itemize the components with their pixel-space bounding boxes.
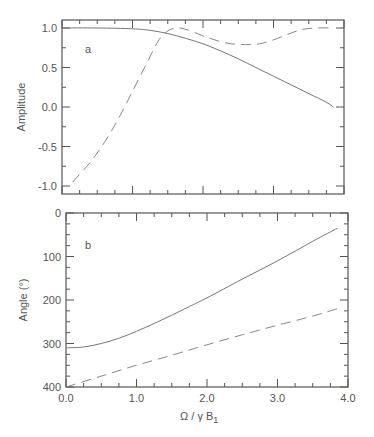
x-axis-label: Ω / γ B1 (180, 410, 218, 425)
y-tick-label: -1.0 (38, 180, 57, 192)
y-tick-label: 100 (43, 251, 61, 263)
amplitude-ticks: 1.00.50.0-0.5-1.0 (38, 20, 344, 194)
y-tick-label: -0.5 (38, 141, 57, 153)
x-tick-label: 3.0 (270, 392, 285, 404)
y-tick-label: 400 (43, 381, 61, 393)
y-tick-label: 0.5 (42, 62, 57, 74)
x-axis-label-subscript: 1 (213, 415, 218, 425)
panel-label-b: b (85, 239, 91, 251)
panel-label-a: a (85, 43, 92, 55)
amplitude-plot-frame (62, 20, 344, 194)
y-tick-label: 0.0 (42, 101, 57, 113)
angle-axis-label: Angle (°) (17, 279, 29, 322)
solid-curve (66, 228, 337, 348)
chart-figure: 1.00.50.0-0.5-1.0 a Amplitude 0.01.02.03… (0, 0, 374, 437)
amplitude-panel: 1.00.50.0-0.5-1.0 a Amplitude (15, 20, 344, 194)
y-tick-label: 300 (43, 338, 61, 350)
angle-panel: 0.01.02.03.04.00100200300400 b Angle (°)… (17, 207, 356, 425)
x-tick-label: 4.0 (340, 392, 355, 404)
y-tick-label: 200 (43, 294, 61, 306)
amplitude-series (62, 28, 333, 182)
y-tick-label: 1.0 (42, 22, 57, 34)
x-tick-label: 2.0 (199, 392, 214, 404)
y-tick-label: 0 (55, 207, 61, 219)
dashed-curve (73, 28, 334, 182)
x-tick-label: 1.0 (129, 392, 144, 404)
angle-ticks: 0.01.02.03.04.00100200300400 (43, 207, 356, 404)
angle-series (66, 228, 337, 387)
x-axis-label-main: Ω / γ B (180, 410, 213, 422)
dashed-curve (66, 309, 337, 387)
angle-plot-frame (66, 213, 348, 387)
amplitude-axis-label: Amplitude (15, 83, 27, 132)
x-tick-label: 0.0 (58, 392, 73, 404)
solid-curve (62, 28, 333, 107)
